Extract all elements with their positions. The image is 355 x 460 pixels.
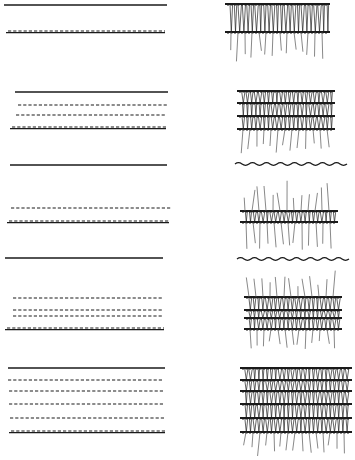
- knit-loop: [321, 380, 324, 391]
- knit-loop: [316, 418, 319, 432]
- knit-loop: [257, 318, 260, 329]
- loose-fiber-down: [327, 129, 329, 147]
- loose-fiber-down: [278, 329, 280, 344]
- knit-loop: [309, 116, 312, 129]
- knit-loop: [293, 103, 295, 116]
- loose-fiber-down: [307, 32, 308, 55]
- knit-loop: [258, 418, 261, 432]
- knit-loop: [280, 91, 283, 103]
- schematic-row-5: [8, 368, 165, 433]
- knit-loop: [321, 116, 325, 129]
- knit-loop: [314, 4, 317, 32]
- knit-loop: [242, 91, 245, 103]
- knit-loop: [245, 391, 247, 404]
- knit-loop: [270, 404, 272, 418]
- knit-loop: [257, 404, 261, 418]
- knit-loop: [342, 380, 345, 391]
- knit-loop: [333, 368, 336, 380]
- knit-loop: [295, 297, 299, 310]
- knit-loop: [246, 91, 249, 103]
- knit-loop: [337, 318, 340, 329]
- knit-loop: [293, 116, 295, 129]
- knit-loop: [283, 368, 286, 380]
- loose-fiber-down: [330, 222, 331, 249]
- knit-loop: [284, 4, 288, 32]
- knit-loop: [262, 418, 265, 432]
- knit-loop: [345, 368, 349, 380]
- knit-loop: [251, 103, 253, 116]
- knit-loop: [333, 318, 337, 329]
- loose-fiber-down: [302, 432, 303, 451]
- knit-loop: [253, 297, 256, 310]
- knit-loop: [292, 404, 294, 418]
- knit-loop: [255, 103, 257, 116]
- knit-loop: [275, 116, 279, 129]
- fabric-sketch-2: [237, 91, 335, 153]
- fabric-sketch-3: [235, 163, 347, 250]
- knit-loop: [266, 391, 268, 404]
- knit-loop: [301, 91, 304, 103]
- loose-fiber-down: [276, 129, 278, 153]
- knit-loop: [308, 297, 311, 310]
- knit-loop: [245, 418, 248, 432]
- knit-loop: [321, 91, 324, 103]
- knit-loop: [277, 4, 279, 32]
- knit-loop: [266, 211, 268, 222]
- knit-loop: [299, 380, 303, 391]
- knit-loop: [251, 116, 253, 129]
- knit-loop: [313, 380, 315, 391]
- knit-loop: [275, 404, 277, 418]
- knit-loop: [320, 318, 323, 329]
- loose-fiber-up: [254, 279, 256, 297]
- knit-loop: [331, 91, 333, 103]
- knit-loop: [312, 404, 314, 418]
- knit-loop: [263, 116, 265, 129]
- knit-loop: [316, 391, 320, 404]
- loose-fiber-down: [305, 329, 306, 349]
- knit-loop: [279, 318, 281, 329]
- loose-fiber-down: [308, 222, 309, 246]
- knit-loop: [313, 391, 315, 404]
- loose-fiber-down: [267, 222, 268, 244]
- knit-loop: [270, 211, 274, 222]
- knit-loop: [338, 380, 340, 391]
- knit-loop: [341, 391, 344, 404]
- knit-loop: [322, 103, 325, 116]
- loose-fiber-up: [244, 198, 245, 211]
- loose-fiber-down: [320, 129, 321, 149]
- knit-loop: [328, 297, 331, 310]
- loose-fiber-down: [263, 129, 264, 144]
- knit-loop: [255, 116, 258, 129]
- knit-loop: [317, 404, 319, 418]
- schematic-row-4: [5, 258, 164, 330]
- knit-loop: [308, 318, 309, 329]
- knit-loop: [320, 211, 324, 222]
- loose-fiber-up: [333, 271, 335, 297]
- knit-loop: [295, 380, 298, 391]
- knit-loop: [270, 318, 273, 329]
- knit-loop: [301, 103, 304, 116]
- loose-fiber-down: [246, 222, 247, 249]
- knit-loop: [278, 380, 281, 391]
- loose-fiber-down: [297, 129, 299, 148]
- knit-loop: [279, 116, 282, 129]
- loose-fiber-down: [286, 432, 288, 450]
- knit-loop: [328, 368, 332, 380]
- knit-loop: [263, 103, 265, 116]
- knit-loop: [254, 368, 256, 380]
- knit-loop: [275, 103, 278, 116]
- fabric-sketch-1: [225, 4, 330, 61]
- knit-loop: [288, 116, 290, 129]
- knit-loop: [309, 91, 312, 103]
- knit-loop: [254, 318, 255, 329]
- knit-loop: [245, 404, 248, 418]
- loose-fiber-up: [252, 190, 255, 211]
- knit-loop: [276, 91, 278, 103]
- loose-fiber-down: [316, 432, 318, 448]
- knit-loop: [249, 211, 251, 222]
- loose-fiber-down: [316, 222, 317, 247]
- knit-loop: [258, 297, 260, 310]
- schematic-row-3: [7, 165, 171, 223]
- knit-loop: [296, 368, 298, 380]
- knit-loop: [245, 380, 248, 391]
